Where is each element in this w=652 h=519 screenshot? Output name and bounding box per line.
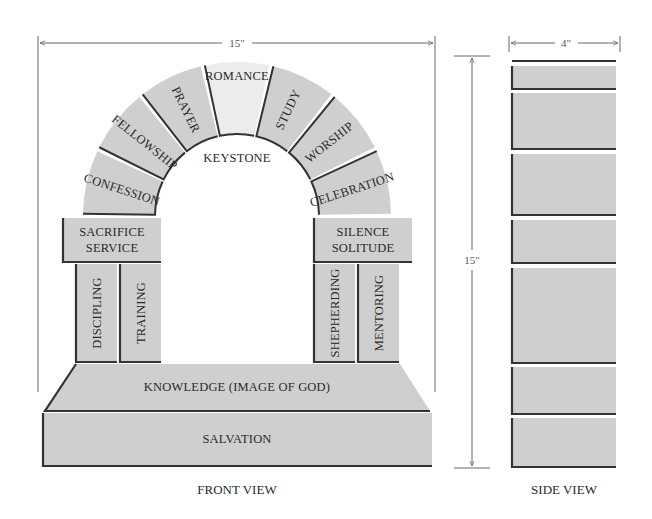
- arch-diagram: 15" CONFESSIONFELLOWSHIPPRAYERROMANCESTU…: [0, 0, 652, 519]
- height-dimension: 15": [454, 56, 490, 468]
- column-label: SHEPHERDING: [328, 268, 342, 357]
- column-shepherding: SHEPHERDING: [314, 264, 355, 362]
- capital-left-line1: SACRIFICE: [79, 225, 145, 239]
- base-knowledge: KNOWLEDGE (IMAGE OF GOD): [45, 364, 430, 411]
- capital-right-line1: SILENCE: [337, 225, 390, 239]
- column-label: DISCIPLING: [90, 277, 104, 348]
- height-label: 15": [464, 254, 480, 266]
- side-width-label: 4": [561, 37, 571, 49]
- side-width-dimension: 4": [509, 36, 620, 52]
- salvation-label: SALVATION: [202, 432, 271, 446]
- column-label: TRAINING: [134, 282, 148, 344]
- voussoir-label: ROMANCE: [205, 69, 269, 83]
- capital-left: SACRIFICE SERVICE: [63, 218, 161, 262]
- capital-left-line2: SERVICE: [86, 241, 139, 255]
- capital-right: SILENCE SOLITUDE: [314, 218, 412, 262]
- column-label: MENTORING: [372, 275, 386, 352]
- column-training: TRAINING: [120, 264, 161, 362]
- knowledge-label: KNOWLEDGE (IMAGE OF GOD): [144, 380, 330, 394]
- keystone-label: KEYSTONE: [203, 151, 271, 165]
- front-view-caption: FRONT VIEW: [197, 482, 277, 497]
- base-salvation: SALVATION: [43, 413, 432, 466]
- column-discipling: DISCIPLING: [76, 264, 117, 362]
- arch: CONFESSIONFELLOWSHIPPRAYERROMANCESTUDYWO…: [82, 62, 396, 215]
- side-view-caption: SIDE VIEW: [531, 482, 598, 497]
- column-mentoring: MENTORING: [358, 264, 399, 362]
- side-view: [512, 61, 616, 467]
- front-width-label: 15": [229, 37, 245, 49]
- capital-right-line2: SOLITUDE: [332, 241, 395, 255]
